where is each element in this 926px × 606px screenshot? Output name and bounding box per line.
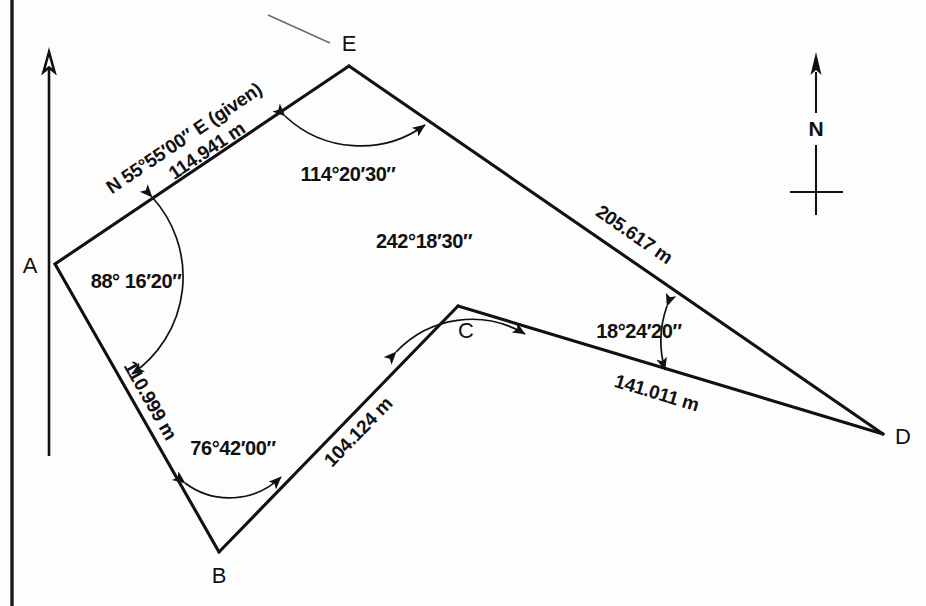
angle-label-b: 76°42′00″ [190,437,276,459]
vertex-label-c: C [458,318,474,343]
survey-diagram-figure: A B C D E N 55°55′00″ E (given) 114.941 … [0,0,926,606]
angle-arc-e [285,116,425,146]
meridian-through-a [44,52,55,456]
side-a-b [55,264,219,552]
angle-label-a: 88° 16′20″ [91,270,182,292]
vertex-label-a: A [23,253,38,278]
side-b-c [219,306,458,552]
angle-arc-b [185,477,281,498]
side-label-bc: 104.124 m [320,393,396,471]
vertex-label-d: D [895,424,911,449]
leader-line-to-e [268,15,330,43]
angle-label-e: 114°20′30″ [300,163,396,185]
vertex-label-e: E [342,31,357,56]
side-bc-length: 104.124 m [320,393,396,471]
angle-label-c: 242°18′30″ [376,230,473,252]
meridian-arrowhead-icon [44,52,55,72]
north-arrow-label: N [808,117,823,140]
side-ed-length: 205.617 m [592,201,677,268]
vertex-label-b: B [212,563,227,588]
angle-label-d: 18°24′20″ [596,320,682,342]
side-label-ae: N 55°55′00″ E (given) 114.941 m [102,78,278,217]
side-label-ed: 205.617 m [592,201,677,268]
